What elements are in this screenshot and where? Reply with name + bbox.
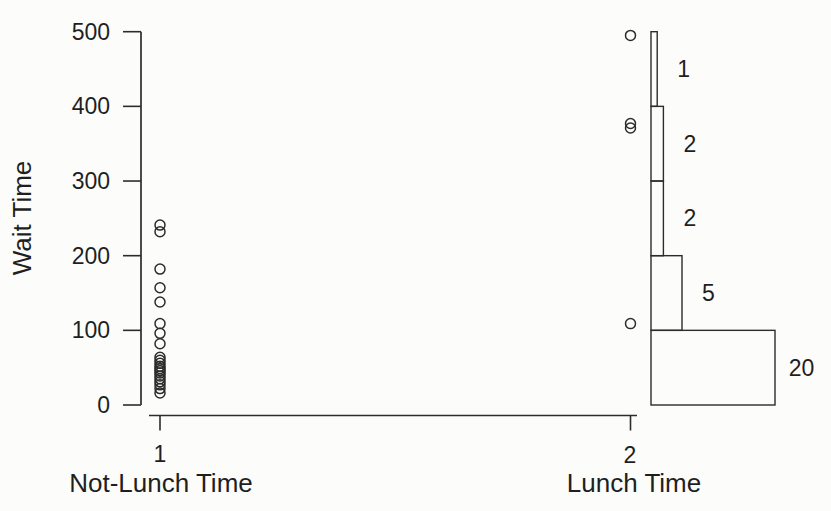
figure: 5004003002001000 Wait Time 1 2 Not-Lunch… xyxy=(0,0,831,511)
group2-axis-label: Lunch Time xyxy=(567,468,701,498)
y-tick-label: 300 xyxy=(72,168,110,194)
data-point xyxy=(155,283,165,293)
strip-points-group1 xyxy=(155,220,165,398)
lunch-histogram: 122520 xyxy=(651,32,814,405)
histogram-bar xyxy=(651,106,663,181)
y-tick-label: 100 xyxy=(72,317,110,343)
group1-axis-label: Not-Lunch Time xyxy=(69,468,253,498)
data-point xyxy=(155,339,165,349)
y-tick-label: 500 xyxy=(72,19,110,45)
histogram-count-label: 2 xyxy=(684,131,697,157)
data-point xyxy=(155,227,165,237)
data-point xyxy=(155,328,165,338)
histogram-bar xyxy=(651,330,775,405)
x-ticks xyxy=(160,416,631,431)
x-tick-label-group1: 1 xyxy=(154,441,167,467)
y-ticks: 5004003002001000 xyxy=(72,19,141,418)
histogram-count-label: 1 xyxy=(677,56,690,82)
data-point xyxy=(155,319,165,329)
data-point xyxy=(155,264,165,274)
histogram-bar xyxy=(651,256,682,331)
histogram-count-label: 5 xyxy=(702,280,715,306)
plot-svg: 5004003002001000 Wait Time 1 2 Not-Lunch… xyxy=(0,0,831,511)
x-tick-label-group2: 2 xyxy=(624,442,637,468)
histogram-bar xyxy=(651,181,663,256)
y-tick-label: 0 xyxy=(97,392,110,418)
data-point xyxy=(626,319,636,329)
y-tick-label: 200 xyxy=(72,243,110,269)
y-axis-title: Wait Time xyxy=(7,161,37,276)
y-tick-label: 400 xyxy=(72,93,110,119)
histogram-count-label: 20 xyxy=(789,355,815,381)
histogram-bar xyxy=(651,32,657,107)
data-point xyxy=(626,30,636,40)
data-point xyxy=(155,297,165,307)
histogram-count-label: 2 xyxy=(684,205,697,231)
strip-points-group2 xyxy=(626,30,636,328)
